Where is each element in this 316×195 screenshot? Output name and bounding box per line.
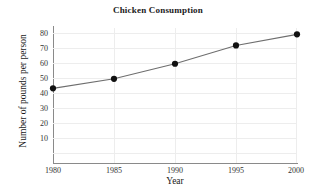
x-axis-title: Year bbox=[53, 176, 297, 186]
data-point bbox=[172, 61, 178, 67]
y-tick-label: 20 bbox=[26, 119, 48, 128]
y-tick-label: 10 bbox=[26, 134, 48, 143]
data-point bbox=[111, 76, 117, 82]
x-tick-label: 1980 bbox=[33, 166, 73, 175]
data-point bbox=[50, 85, 56, 91]
data-point bbox=[294, 31, 300, 37]
x-tick-label: 2000 bbox=[276, 166, 316, 175]
chart-title: Chicken Consumption bbox=[0, 5, 316, 15]
plot-area bbox=[53, 28, 297, 163]
y-tick-label: 40 bbox=[26, 89, 48, 98]
data-series bbox=[53, 28, 297, 163]
x-tick-label: 1990 bbox=[155, 166, 195, 175]
x-tick-label: 1995 bbox=[216, 166, 256, 175]
data-point bbox=[233, 42, 239, 48]
y-tick-label: 30 bbox=[26, 104, 48, 113]
x-axis-line bbox=[53, 163, 298, 164]
y-tick-label: 70 bbox=[26, 44, 48, 53]
chart-figure: Chicken Consumption Number of pounds per… bbox=[0, 0, 316, 195]
x-tick-label: 1985 bbox=[94, 166, 134, 175]
y-tick-label: 50 bbox=[26, 74, 48, 83]
y-tick-label: 80 bbox=[26, 29, 48, 38]
y-tick-label: 60 bbox=[26, 59, 48, 68]
